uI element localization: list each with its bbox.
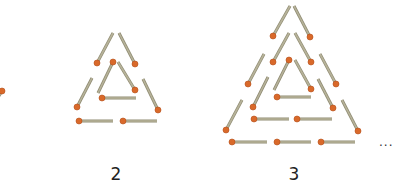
match-head bbox=[132, 61, 138, 67]
matchstick bbox=[229, 139, 267, 145]
match-head bbox=[270, 59, 276, 65]
matchstick bbox=[250, 77, 268, 110]
matchstick bbox=[120, 118, 157, 124]
match-head bbox=[274, 139, 280, 145]
match-head bbox=[286, 57, 292, 63]
matchstick bbox=[143, 79, 161, 113]
match-head bbox=[99, 95, 105, 101]
match-head bbox=[307, 34, 313, 40]
match-head bbox=[318, 139, 324, 145]
matchstick bbox=[76, 118, 113, 124]
match-head bbox=[120, 118, 126, 124]
pattern-2-two-triangles bbox=[74, 33, 161, 124]
matchstick bbox=[99, 95, 136, 101]
match-head bbox=[245, 81, 251, 87]
matchstick bbox=[223, 100, 242, 133]
matchstick bbox=[251, 116, 289, 122]
matchstick-triangle-pattern-figure: 2 3 ... bbox=[0, 0, 411, 187]
match-head bbox=[74, 104, 80, 110]
matchstick bbox=[318, 139, 355, 145]
match-head bbox=[155, 107, 161, 113]
matchstick bbox=[274, 57, 292, 90]
matchstick bbox=[245, 54, 264, 87]
match-head bbox=[333, 81, 339, 87]
match-head bbox=[229, 139, 235, 145]
matchstick bbox=[320, 54, 339, 87]
matchstick bbox=[74, 78, 92, 110]
match-head bbox=[76, 118, 82, 124]
match-head bbox=[251, 116, 257, 122]
match-head bbox=[94, 60, 100, 66]
matchstick-drawing bbox=[0, 0, 411, 187]
match-head bbox=[250, 104, 256, 110]
matchstick bbox=[342, 100, 361, 134]
pattern-2-label: 2 bbox=[111, 166, 122, 183]
matchstick bbox=[294, 116, 332, 122]
match-head bbox=[355, 128, 361, 134]
pattern-1-partial bbox=[0, 88, 5, 104]
match-head bbox=[0, 88, 5, 94]
match-head bbox=[132, 87, 138, 93]
matchstick bbox=[274, 94, 311, 100]
matchstick bbox=[119, 33, 138, 67]
matchstick bbox=[98, 59, 116, 93]
match-head bbox=[294, 116, 300, 122]
match-head bbox=[270, 33, 276, 39]
match-head bbox=[308, 86, 314, 92]
match-head bbox=[308, 59, 314, 65]
matchstick bbox=[274, 139, 311, 145]
match-head bbox=[330, 105, 336, 111]
match-head bbox=[110, 59, 116, 65]
match-head bbox=[274, 94, 280, 100]
matchstick bbox=[0, 88, 5, 104]
match-head bbox=[223, 127, 229, 133]
pattern-3-label: 3 bbox=[289, 166, 300, 183]
continuation-ellipsis: ... bbox=[379, 136, 393, 148]
pattern-3-three-triangles bbox=[223, 6, 361, 145]
